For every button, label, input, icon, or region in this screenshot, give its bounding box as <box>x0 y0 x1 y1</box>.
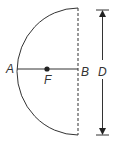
label-a: A <box>5 62 14 76</box>
arrow-down-icon <box>99 128 106 135</box>
arrow-up-icon <box>99 10 106 17</box>
focus-point <box>44 66 49 71</box>
semicircle-diagram: A B F D <box>0 0 119 146</box>
label-b: B <box>81 65 89 79</box>
label-d: D <box>98 65 107 79</box>
label-f: F <box>44 73 52 87</box>
